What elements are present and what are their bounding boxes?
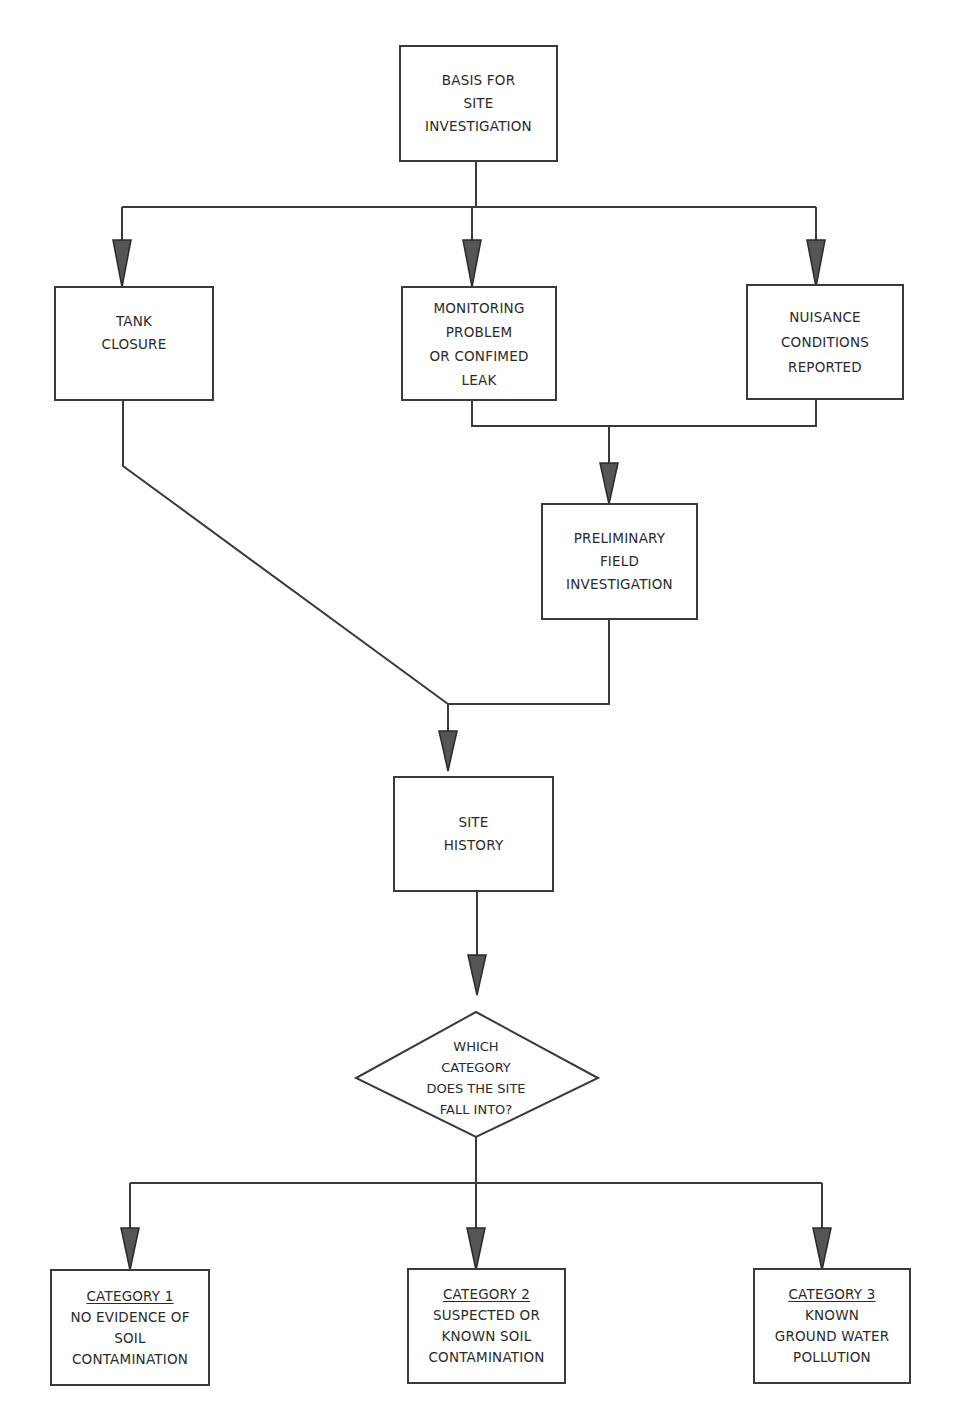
node-label: CONTAMINATION — [72, 1349, 188, 1370]
node-label: GROUND WATER — [775, 1326, 890, 1347]
node-label: SUSPECTED OR — [433, 1305, 540, 1326]
node-label: NUISANCE — [789, 305, 861, 330]
node-label: FIELD — [600, 550, 639, 573]
node-label: LEAK — [462, 368, 497, 392]
node-label: INVESTIGATION — [425, 115, 532, 138]
node-category-3: CATEGORY 3 KNOWN GROUND WATER POLLUTION — [753, 1268, 911, 1384]
node-label: SITE — [463, 92, 493, 115]
node-label: CLOSURE — [102, 333, 167, 356]
category-heading: CATEGORY 1 — [86, 1286, 173, 1307]
node-nuisance-conditions: NUISANCE CONDITIONS REPORTED — [746, 284, 904, 400]
category-heading: CATEGORY 3 — [788, 1284, 875, 1305]
node-label: DOES THE SITE — [426, 1078, 525, 1099]
arrow-down-icon — [113, 240, 131, 287]
node-label: CATEGORY — [441, 1057, 511, 1078]
arrow-down-icon — [463, 240, 481, 287]
node-label: FALL INTO? — [440, 1099, 512, 1120]
node-label: CONDITIONS — [781, 330, 869, 355]
node-label: NO EVIDENCE OF — [70, 1307, 189, 1328]
node-tank-closure: TANK CLOSURE — [54, 286, 214, 401]
flowchart: BASIS FOR SITE INVESTIGATION TANK CLOSUR… — [0, 0, 954, 1418]
node-label: INVESTIGATION — [566, 573, 673, 596]
node-label: KNOWN — [805, 1305, 859, 1326]
arrow-down-icon — [468, 955, 486, 995]
node-site-history: SITE HISTORY — [393, 776, 554, 892]
node-label: PROBLEM — [446, 320, 513, 344]
node-preliminary-field-investigation: PRELIMINARY FIELD INVESTIGATION — [541, 503, 698, 620]
decision-label: WHICH CATEGORY DOES THE SITE FALL INTO? — [396, 1026, 556, 1130]
node-label: OR CONFIMED — [430, 344, 529, 368]
node-basis-for-site-investigation: BASIS FOR SITE INVESTIGATION — [399, 45, 558, 162]
node-label: MONITORING — [433, 296, 524, 320]
category-heading: CATEGORY 2 — [443, 1284, 530, 1305]
node-label: TANK — [116, 310, 152, 333]
arrow-down-icon — [807, 240, 825, 287]
node-label: HISTORY — [444, 834, 504, 857]
arrow-down-icon — [813, 1228, 831, 1270]
node-label: PRELIMINARY — [574, 527, 665, 550]
arrow-down-icon — [439, 731, 457, 771]
node-monitoring-problem: MONITORING PROBLEM OR CONFIMED LEAK — [401, 286, 557, 401]
node-label: WHICH — [453, 1036, 498, 1057]
node-label: SOIL — [114, 1328, 146, 1349]
node-label: BASIS FOR — [442, 69, 515, 92]
node-label: CONTAMINATION — [428, 1347, 544, 1368]
connector-lines — [0, 0, 954, 1418]
node-label: SITE — [458, 811, 488, 834]
node-label: KNOWN SOIL — [441, 1326, 531, 1347]
arrow-down-icon — [467, 1228, 485, 1270]
node-category-1: CATEGORY 1 NO EVIDENCE OF SOIL CONTAMINA… — [50, 1269, 210, 1386]
arrow-down-icon — [121, 1228, 139, 1270]
node-label: POLLUTION — [793, 1347, 871, 1368]
node-label: REPORTED — [788, 355, 862, 380]
arrow-down-icon — [600, 463, 618, 504]
node-category-2: CATEGORY 2 SUSPECTED OR KNOWN SOIL CONTA… — [407, 1268, 566, 1384]
